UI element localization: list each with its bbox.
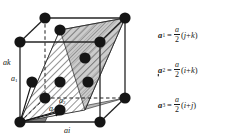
equation-a1-fraction: a 2 bbox=[174, 26, 180, 44]
vector-label-a3-sub: 3 bbox=[53, 108, 56, 113]
vector-label-a1: a1 bbox=[11, 74, 18, 83]
equation-a3-numerator: a bbox=[175, 96, 179, 104]
atom-corner bbox=[39, 92, 50, 103]
atom-corner bbox=[119, 92, 130, 103]
fcc-lattice-diagram: ak ai a1 a2 a3 bbox=[0, 0, 146, 139]
atom-face-center bbox=[54, 104, 65, 115]
equation-a2-close-paren: ) bbox=[195, 65, 198, 75]
atom-corner bbox=[94, 36, 105, 47]
atom-corner bbox=[119, 12, 130, 23]
atom-face-center bbox=[82, 76, 93, 87]
atom-face-center bbox=[54, 76, 65, 87]
equation-a1-close-paren: ) bbox=[195, 30, 198, 40]
atom-face-center bbox=[26, 76, 37, 87]
equation-a2-denominator: 2 bbox=[175, 70, 179, 78]
vector-label-a2: a2 bbox=[59, 96, 66, 105]
equation-a3: a3 = a 2 (i+j) bbox=[158, 96, 196, 114]
atom-corner bbox=[94, 116, 105, 127]
atom-face-center bbox=[79, 52, 90, 63]
equation-a1-equals: = bbox=[165, 30, 173, 40]
lattice-svg bbox=[0, 0, 146, 139]
equation-a3-equals: = bbox=[165, 100, 173, 110]
equation-a1-numerator: a bbox=[175, 26, 179, 34]
atom-face-center bbox=[54, 24, 65, 35]
atom-corner bbox=[14, 116, 25, 127]
atom-corner bbox=[14, 36, 25, 47]
equations-wrap: { a1 = a 2 (j+k) a2 = a 2 bbox=[146, 0, 226, 139]
equation-a1-denominator: 2 bbox=[175, 35, 179, 43]
atom-corner bbox=[39, 12, 50, 23]
equations-panel: { a1 = a 2 (j+k) a2 = a 2 bbox=[146, 0, 226, 139]
equation-a2-fraction: a 2 bbox=[174, 61, 180, 79]
figure-root: ak ai a1 a2 a3 { a1 = a 2 (j+k) a2 bbox=[0, 0, 226, 139]
axis-label-ak: ak bbox=[3, 58, 11, 67]
axis-label-ai: ai bbox=[64, 126, 70, 135]
equation-a2-equals: = bbox=[165, 65, 173, 75]
equation-a3-fraction: a 2 bbox=[174, 96, 180, 114]
equation-a2-numerator: a bbox=[175, 61, 179, 69]
equation-a1: a1 = a 2 (j+k) bbox=[158, 26, 198, 44]
vector-label-a1-sub: 1 bbox=[15, 78, 18, 83]
equation-a3-denominator: 2 bbox=[175, 105, 179, 113]
equation-a2: a2 = a 2 (i+k) bbox=[158, 61, 198, 79]
equation-a3-close-paren: ) bbox=[193, 100, 196, 110]
vector-label-a2-sub: 2 bbox=[63, 100, 66, 105]
vector-label-a3: a3 bbox=[49, 104, 56, 113]
